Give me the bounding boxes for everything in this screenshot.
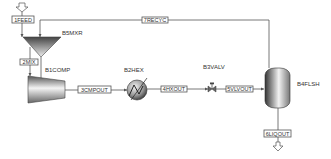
- feed-inlet-arrow-icon: [16, 3, 28, 12]
- block-label-b1comp: B1COMP: [45, 67, 70, 73]
- stream-2mix[interactable]: 2MIX: [20, 59, 38, 65]
- mixer-block-b5mxr[interactable]: [23, 37, 61, 57]
- stream-label: 3CMPOUT: [81, 87, 109, 93]
- stream-3cmpout[interactable]: 3CMPOUT: [78, 86, 111, 93]
- stream-1feed[interactable]: 1FEED: [12, 16, 34, 23]
- stream-label: 2MIX: [23, 59, 36, 65]
- stream-label: 7RECYC: [144, 17, 166, 23]
- compressor-block-b1comp[interactable]: [28, 76, 65, 103]
- flowsheet-canvas: 1FEED 7RECYC B5MXR 2MIX B1COMP 3CMPOUT B…: [0, 0, 331, 159]
- block-label-b4flsh: B4FLSH: [297, 81, 320, 87]
- stream-label: 4HXOUT: [163, 86, 186, 92]
- stream-6liqout[interactable]: 6LIQOUT: [264, 130, 291, 137]
- valve-block-b3valv[interactable]: [208, 83, 216, 93]
- block-label-b3valv: B3VALV: [203, 64, 225, 70]
- product-outlet-arrow-icon: [273, 142, 283, 151]
- stream-7recyc[interactable]: 7RECYC: [142, 17, 168, 23]
- stream-5vlvout[interactable]: 5VLVOUT: [226, 86, 253, 92]
- flash-drum-block-b4flsh[interactable]: [265, 68, 290, 108]
- stream-4hxout[interactable]: 4HXOUT: [161, 86, 187, 92]
- heat-exchanger-block-b2hex[interactable]: [127, 78, 147, 100]
- stream-label: 6LIQOUT: [266, 131, 290, 137]
- stream-label: 1FEED: [14, 17, 32, 23]
- block-label-b5mxr: B5MXR: [62, 30, 83, 36]
- block-label-b2hex: B2HEX: [124, 67, 144, 73]
- stream-label: 5VLVOUT: [227, 86, 252, 92]
